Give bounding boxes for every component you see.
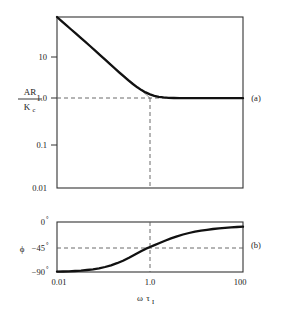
panel-a-ytick-label-0-1: 0.1 [36,140,47,150]
panel-a-axis-label-denominator-subscript: c [33,106,36,113]
panel-a-label: (a) [251,93,261,103]
panel-b-ytick-label-0-degree: ° [46,215,49,222]
x-axis-label-tau: τ [146,293,150,303]
panel-b-ytick-label-minus90: −90 ° [32,265,49,277]
panel-a-axis-label-denominator: K [24,102,31,112]
x-axis-label-tau-subscript: I [152,298,154,305]
panel-b-label: (b) [251,240,261,250]
xtick-label-100: 100 [234,277,247,287]
panel-b-ytick-label-0-value: 0 [41,217,45,227]
panel-b-phase-angle: 0 ° −45 ° −90 ° ϕ (b) 0.01 1.0 100 ω τ [20,215,261,305]
bode-plot-svg: 10 1.0 0.1 0.01 AR K c (a) [0,0,291,314]
panel-b-ytick-label-minus90-value: −90 [32,267,45,277]
panel-a-ytick-label-10: 10 [39,52,48,62]
panel-a-amplitude-ratio: 10 1.0 0.1 0.01 AR K c (a) [18,17,261,193]
panel-b-ytick-label-minus90-degree: ° [46,265,49,272]
x-axis-label-omega-tau-i: ω τ I [137,293,154,305]
panel-b-ytick-label-minus45: −45 ° [32,241,49,253]
panel-b-ytick-label-minus45-value: −45 [32,243,45,253]
panel-b-ytick-label-minus45-degree: ° [46,241,49,248]
xtick-label-0-01: 0.01 [52,277,67,287]
panel-a-ytick-label-1: 1.0 [36,93,47,103]
panel-a-ytick-label-0-01: 0.01 [32,183,47,193]
xtick-label-1-0: 1.0 [145,277,156,287]
panel-b-axis-label-phi: ϕ [20,244,25,254]
panel-b-ytick-label-0: 0 ° [41,215,49,227]
panel-a-amplitude-ratio-curve [57,17,243,98]
bode-plot-figure: 10 1.0 0.1 0.01 AR K c (a) [0,0,291,314]
x-axis-label-omega: ω [137,293,143,303]
panel-a-axis-label-numerator: AR [24,87,37,97]
